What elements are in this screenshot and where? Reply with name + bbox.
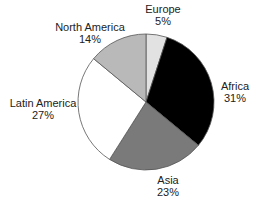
label-asia: Asia23% [157,174,179,198]
label-africa: Africa31% [221,80,249,104]
label-latin-america: Latin America27% [10,97,77,121]
slice-percent: 5% [145,15,180,27]
slice-percent: 31% [221,92,249,104]
slice-name: Latin America [10,97,77,109]
slice-percent: 14% [55,33,125,45]
label-north-america: North America14% [55,21,125,45]
slice-name: Africa [221,80,249,92]
slice-percent: 23% [157,186,179,198]
slice-name: Asia [157,174,179,186]
slice-name: Europe [145,3,180,15]
slice-name: North America [55,21,125,33]
slice-percent: 27% [10,109,77,121]
label-europe: Europe5% [145,3,180,27]
